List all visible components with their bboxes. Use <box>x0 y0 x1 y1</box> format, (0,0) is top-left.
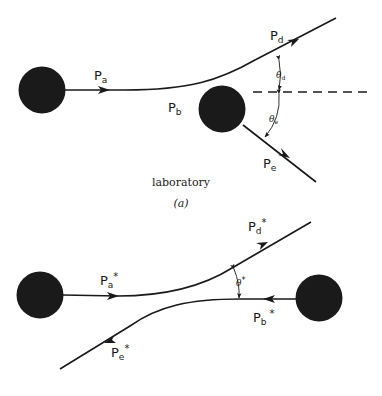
label-pa-star: Pa* <box>100 271 118 290</box>
label-pb: Pb <box>168 100 182 117</box>
incident-particle-a-star <box>17 272 64 319</box>
panel-a-laboratory: Pa Pb Pd Pe θd θe laboratory (a) <box>19 18 369 210</box>
target-particle-b <box>199 86 246 133</box>
arrow-pe-star-icon <box>104 336 116 343</box>
caption-laboratory: laboratory <box>152 176 211 189</box>
incident-particle-a <box>19 67 66 114</box>
target-particle-b-star <box>296 275 343 322</box>
label-theta-star: θ* <box>236 276 245 288</box>
label-theta-d: θd <box>276 70 285 81</box>
label-pb-star: Pb* <box>253 308 275 327</box>
track-pe <box>243 125 316 182</box>
caption-panel-label: (a) <box>173 197 188 210</box>
label-pe-star: Pe* <box>111 343 129 362</box>
label-pa: Pa <box>94 68 107 85</box>
label-pd: Pd <box>270 28 284 45</box>
label-pe: Pe <box>263 156 277 173</box>
scattering-diagram: Pa Pb Pd Pe θd θe laboratory (a) <box>0 0 382 396</box>
panel-b-cm: Pa* Pd* Pb* Pe* θ* <box>17 217 343 369</box>
label-pd-star: Pd* <box>248 217 267 236</box>
